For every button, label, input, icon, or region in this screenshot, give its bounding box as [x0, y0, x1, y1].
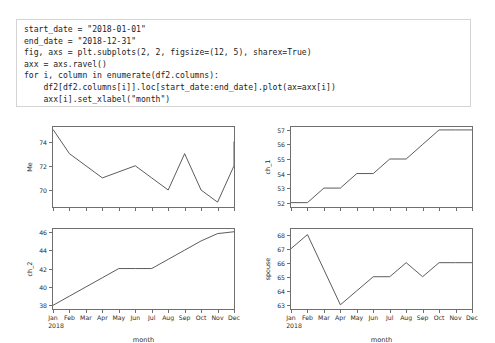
code-line: axx[i].set_xlabel("month") — [24, 94, 463, 106]
y-tick-mark — [287, 305, 290, 306]
code-line: axx[i].set_ylabel(column) — [24, 105, 463, 107]
x-tick-mark — [439, 310, 440, 313]
x-tick-label: Aug — [400, 314, 412, 321]
code-cell[interactable]: start_date = "2018-01-01" end_date = "20… — [16, 19, 471, 107]
x-tick-label: Feb — [302, 314, 313, 321]
x-tick-mark — [357, 310, 358, 313]
x-tick-mark — [307, 310, 308, 313]
y-tick-mark — [287, 291, 290, 292]
code-line: start_date = "2018-01-01" — [24, 24, 463, 36]
x-tick-mark — [291, 310, 292, 313]
x-tick-label: Jan — [286, 314, 296, 321]
x-axis-label: month — [371, 336, 392, 343]
screenshot-root: start_date = "2018-01-01" end_date = "20… — [0, 0, 495, 343]
code-line: end_date = "2018-12-31" — [24, 36, 463, 48]
x-tick-label: Dec — [466, 314, 478, 321]
y-tick-mark — [287, 249, 290, 250]
x-tick-label: Jul — [386, 314, 393, 321]
x-tick-mark — [406, 310, 407, 313]
x-tick-label: Mar — [318, 314, 330, 321]
y-axis-label: spouse — [264, 228, 272, 310]
code-line: for i, column in enumerate(df2.columns): — [24, 70, 463, 82]
x-tick-year-label: 2018 — [286, 322, 302, 329]
code-line: axx = axs.ravel() — [24, 59, 463, 71]
plot-area — [290, 228, 473, 310]
x-tick-mark — [423, 310, 424, 313]
x-tick-mark — [472, 310, 473, 313]
matplotlib-figure-output: 707274Me 525354555657ch_1 3840424446ch_2… — [0, 118, 495, 343]
x-tick-label: Nov — [449, 314, 461, 321]
x-tick-label: Oct — [434, 314, 445, 321]
x-tick-mark — [340, 310, 341, 313]
y-tick-mark — [287, 263, 290, 264]
x-tick-label: Jun — [368, 314, 378, 321]
x-tick-mark — [373, 310, 374, 313]
x-tick-mark — [390, 310, 391, 313]
series-line — [291, 229, 472, 309]
y-tick-mark — [287, 277, 290, 278]
x-tick-mark — [324, 310, 325, 313]
code-line: fig, axs = plt.subplots(2, 2, figsize=(1… — [24, 47, 463, 59]
x-tick-label: May — [350, 314, 363, 321]
code-line: df2[df2.columns[i]].loc[start_date:end_d… — [24, 82, 463, 94]
x-tick-mark — [456, 310, 457, 313]
y-tick-mark — [287, 235, 290, 236]
subplot-bottom-right: 636465666768spouseJan2018FebMarAprMayJun… — [0, 118, 495, 343]
x-tick-label: Apr — [335, 314, 346, 321]
x-tick-label: Sep — [417, 314, 429, 321]
